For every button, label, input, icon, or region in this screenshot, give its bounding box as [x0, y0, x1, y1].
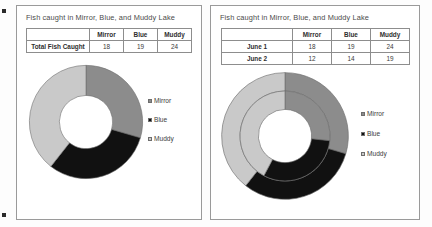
- legend-item: Blue: [361, 130, 387, 137]
- left-data-table: MirrorBlueMuddy Total Fish Caught181924: [26, 28, 192, 53]
- doughnut-segment-mirror: [86, 65, 143, 137]
- right-chart-legend: MirrorBlueMuddy: [361, 110, 387, 157]
- table-body: Total Fish Caught181924: [27, 41, 192, 53]
- data-cell: 18: [293, 41, 332, 53]
- data-cell: 19: [332, 41, 371, 53]
- table-row: June 2121419: [222, 53, 410, 65]
- legend-label: Muddy: [367, 150, 387, 157]
- table-body: June 1181924June 2121419: [222, 41, 410, 65]
- doughnut-svg: [27, 63, 145, 181]
- table-header-row: MirrorBlueMuddy: [222, 29, 410, 41]
- legend-swatch-icon: [148, 118, 152, 122]
- column-header: Muddy: [158, 29, 192, 41]
- column-header: Blue: [124, 29, 158, 41]
- right-doughnut-chart: [219, 70, 351, 202]
- legend-swatch-icon: [148, 99, 152, 103]
- page-corner-marker-top: [2, 9, 6, 13]
- data-cell: 19: [124, 41, 158, 53]
- table-row: June 1181924: [222, 41, 410, 53]
- column-header: Blue: [332, 29, 371, 41]
- worksheet-page: Fish caught in Mirror, Blue, and Muddy L…: [0, 0, 432, 227]
- column-header: Muddy: [371, 29, 410, 41]
- column-header: Mirror: [293, 29, 332, 41]
- right-chart-area: MirrorBlueMuddy: [211, 70, 419, 218]
- right-chart-panel: Fish caught in Mirror, Blue, and Muddy L…: [210, 5, 420, 220]
- doughnut-segment-blue: [51, 129, 141, 178]
- table-corner-cell: [222, 29, 293, 41]
- right-data-table: MirrorBlueMuddy June 1181924June 2121419: [221, 28, 410, 65]
- data-cell: 19: [371, 53, 410, 65]
- table-corner-cell: [27, 29, 90, 41]
- legend-swatch-icon: [148, 137, 152, 141]
- legend-item: Blue: [148, 116, 174, 123]
- row-label: Total Fish Caught: [27, 41, 90, 53]
- data-cell: 24: [158, 41, 192, 53]
- data-cell: 12: [293, 53, 332, 65]
- left-chart-area: MirrorBlueMuddy: [17, 61, 201, 219]
- right-panel-title: Fish caught in Mirror, Blue, and Muddy L…: [220, 13, 369, 22]
- legend-label: Blue: [154, 116, 167, 123]
- legend-item: Muddy: [361, 150, 387, 157]
- left-chart-legend: MirrorBlueMuddy: [148, 97, 174, 142]
- doughnut-svg: [219, 70, 351, 202]
- table-row: Total Fish Caught181924: [27, 41, 192, 53]
- left-panel-title: Fish caught in Mirror, Blue, and Muddy L…: [26, 13, 175, 22]
- data-cell: 18: [90, 41, 124, 53]
- data-cell: 14: [332, 53, 371, 65]
- legend-item: Mirror: [148, 97, 174, 104]
- left-doughnut-chart: [27, 63, 145, 181]
- legend-label: Muddy: [154, 135, 174, 142]
- legend-swatch-icon: [361, 112, 365, 116]
- legend-label: Blue: [367, 130, 380, 137]
- legend-swatch-icon: [361, 132, 365, 136]
- table-header-row: MirrorBlueMuddy: [27, 29, 192, 41]
- legend-label: Mirror: [367, 110, 384, 117]
- data-cell: 24: [371, 41, 410, 53]
- page-corner-marker-bottom: [2, 213, 6, 217]
- column-header: Mirror: [90, 29, 124, 41]
- left-chart-panel: Fish caught in Mirror, Blue, and Muddy L…: [16, 5, 202, 220]
- row-label: June 2: [222, 53, 293, 65]
- legend-label: Mirror: [154, 97, 171, 104]
- legend-swatch-icon: [361, 152, 365, 156]
- legend-item: Muddy: [148, 135, 174, 142]
- row-label: June 1: [222, 41, 293, 53]
- legend-item: Mirror: [361, 110, 387, 117]
- panel-container: Fish caught in Mirror, Blue, and Muddy L…: [16, 5, 420, 220]
